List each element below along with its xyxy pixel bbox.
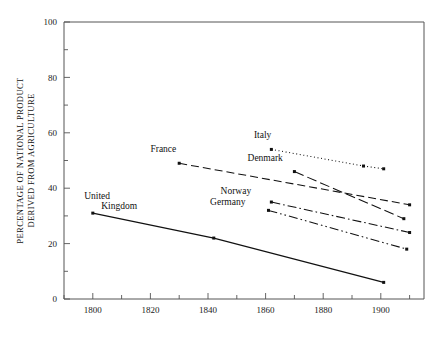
series-line-italy: [271, 149, 383, 168]
series-label-norway: Norway: [221, 186, 252, 196]
series-label-denmark: Denmark: [248, 153, 284, 163]
chart-series-labels: ItalyFranceDenmarkNorwayGermanyUnitedKin…: [84, 130, 283, 211]
series-label-germany: Germany: [210, 197, 246, 207]
chart-svg: 020406080100180018201840186018801900PERC…: [0, 0, 443, 339]
chart-plot-area: [91, 148, 411, 284]
y-axis-title-line-2: DERIVED FROM AGRICULTURE: [26, 93, 36, 227]
x-axis-tick-label: 1840: [199, 305, 218, 315]
x-axis-tick-label: 1820: [141, 305, 160, 315]
y-axis-tick-label: 40: [48, 183, 58, 193]
y-axis-tick-label: 60: [48, 128, 58, 138]
data-point-marker: [270, 148, 273, 151]
y-axis-tick-label: 100: [44, 17, 58, 27]
data-point-marker: [212, 237, 215, 240]
chart-figure: 020406080100180018201840186018801900PERC…: [0, 0, 443, 339]
data-point-marker: [408, 203, 411, 206]
x-axis-tick-label: 1880: [314, 305, 333, 315]
series-label-france: France: [150, 144, 176, 154]
data-point-marker: [293, 170, 296, 173]
data-point-marker: [267, 209, 270, 212]
series-label-italy: Italy: [254, 130, 272, 140]
data-point-marker: [362, 165, 365, 168]
data-point-marker: [382, 281, 385, 284]
data-point-marker: [270, 201, 273, 204]
x-axis-tick-label: 1800: [84, 305, 103, 315]
y-axis-title-line-1: PERCENTAGE OF NATIONAL PRODUCT: [15, 77, 25, 244]
data-point-marker: [402, 217, 405, 220]
series-line-united-kingdom: [93, 213, 384, 282]
y-axis-tick-label: 0: [53, 294, 58, 304]
axis-frame: [64, 22, 424, 299]
series-label-united-kingdom-line-2: Kingdom: [101, 201, 138, 211]
data-point-marker: [408, 231, 411, 234]
y-axis-tick-label: 20: [48, 239, 58, 249]
x-axis-tick-label: 1900: [372, 305, 391, 315]
data-point-marker: [405, 248, 408, 251]
x-axis-tick-label: 1860: [257, 305, 276, 315]
data-point-marker: [382, 167, 385, 170]
y-axis-tick-label: 80: [48, 73, 58, 83]
series-line-denmark: [294, 172, 403, 219]
data-point-marker: [178, 162, 181, 165]
data-point-marker: [91, 212, 94, 215]
series-label-united-kingdom-line-1: United: [84, 191, 110, 201]
